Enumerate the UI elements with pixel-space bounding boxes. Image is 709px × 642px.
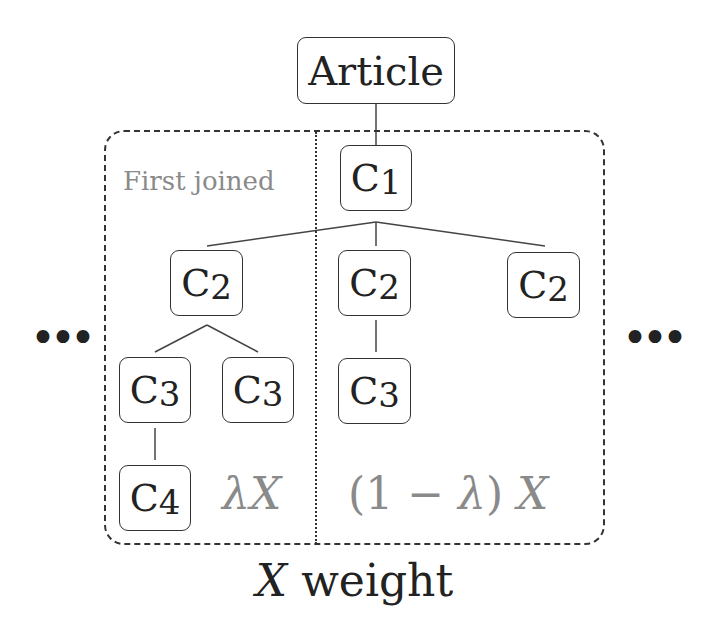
node-letter: C (351, 156, 380, 200)
article-node: Article (297, 37, 455, 104)
c3-c-node: C3 (338, 358, 411, 424)
node-level: 2 (210, 267, 232, 307)
node-level: 3 (378, 375, 400, 415)
close-paren: ) (486, 468, 517, 519)
c1-node: C1 (340, 145, 412, 211)
left-weight-label: λX (222, 468, 281, 519)
node-level: 2 (378, 267, 400, 307)
node-level: 1 (380, 162, 402, 202)
x-symbol: X (250, 468, 281, 519)
c4-node: C4 (119, 465, 191, 531)
article-label: Article (308, 48, 444, 94)
right-weight-label: (1 − λ) X (348, 468, 548, 519)
ellipsis-left-icon: ••• (30, 312, 90, 363)
x-symbol: X (517, 468, 548, 519)
node-level: 3 (262, 374, 284, 414)
caption-text: weight (287, 555, 453, 606)
region-divider (315, 132, 317, 544)
node-letter: C (349, 261, 378, 305)
node-letter: C (130, 368, 159, 412)
node-letter: C (518, 263, 547, 307)
node-letter: C (181, 261, 210, 305)
node-level: 2 (547, 269, 569, 309)
ellipsis-right-icon: ••• (622, 312, 682, 363)
node-letter: C (349, 369, 378, 413)
one-minus: (1 − (348, 468, 458, 519)
caption-x-symbol: X (256, 555, 287, 606)
node-level: 3 (159, 374, 181, 414)
node-letter: C (130, 476, 159, 520)
c3-a-node: C3 (119, 357, 191, 423)
node-level: 4 (159, 482, 181, 522)
c2-mid-node: C2 (338, 250, 411, 316)
c2-left-node: C2 (170, 250, 243, 316)
first-joined-label: First joined (123, 166, 275, 196)
node-letter: C (233, 368, 262, 412)
caption: X weight (0, 555, 709, 606)
lambda-symbol: λ (458, 468, 486, 519)
lambda-symbol: λ (222, 468, 250, 519)
c3-b-node: C3 (222, 357, 294, 423)
c2-right-node: C2 (507, 252, 580, 318)
